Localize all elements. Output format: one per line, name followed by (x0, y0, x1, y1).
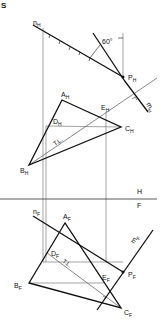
label-p-f: PF (128, 271, 136, 280)
angle-arc (90, 45, 100, 58)
label-b-f: BF (14, 282, 22, 291)
point-p-f (122, 271, 125, 274)
label-a-f: AF (63, 213, 71, 222)
label-e-h: EH (101, 104, 110, 113)
label-b-h: BH (20, 167, 29, 176)
label-n-f: nF (33, 208, 40, 217)
label-d-f: DF (51, 250, 59, 259)
line-m-f (97, 230, 153, 310)
point-p-h (122, 76, 125, 79)
label-a-h: AH (61, 91, 70, 100)
line-n-f (33, 216, 123, 272)
descriptive-geometry-diagram: S 60° nH PH mH AH BH CH DH EH T.L. H F n… (0, 0, 168, 327)
label-c-f: CF (124, 309, 132, 318)
label-n-h: nH (33, 19, 41, 28)
label-p-h: PH (128, 74, 137, 83)
front-view-lines (29, 216, 153, 310)
corner-label: S (1, 1, 7, 10)
angle-label: 60° (102, 38, 113, 45)
line-m-h-lower (124, 80, 148, 112)
label-m-f: mF (129, 233, 141, 245)
label-tl-f: T.L. (61, 258, 73, 269)
label-c-h: CH (125, 125, 134, 134)
label-d-h: DH (53, 118, 62, 127)
line-n-h (33, 25, 123, 77)
fold-label-f: F (137, 202, 141, 209)
hatch-marks (49, 35, 90, 61)
top-view-lines (29, 25, 148, 165)
fold-label-h: H (137, 188, 142, 195)
